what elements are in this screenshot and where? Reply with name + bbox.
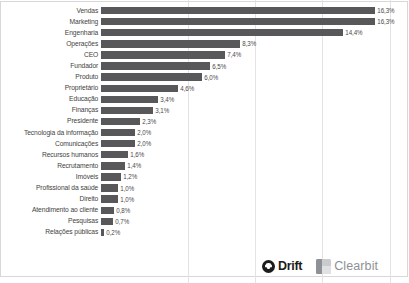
bar-category-label: Comunicações [8,140,101,148]
bar-category-label: Produto [8,73,101,81]
bar-track: 7,4% [101,49,409,60]
bar-value-label: 7,4% [225,51,241,58]
bar-track: 2,3% [101,116,409,127]
bar-track: 1,0% [101,183,409,194]
bar-value-label: 4,6% [178,85,194,92]
bar[interactable] [101,184,118,191]
bar-row[interactable]: Imóveis1,2% [0,171,409,182]
bar-track: 4,6% [101,83,409,94]
bar-row[interactable]: Operações8,3% [0,38,409,49]
bar-track: 3,4% [101,94,409,105]
bar[interactable] [101,73,202,80]
bar-row[interactable]: Vendas16,3% [0,5,409,16]
bar-track: 0,7% [101,216,409,227]
bar-value-label: 1,4% [125,162,141,169]
bar-category-label: Marketing [8,18,101,26]
bar[interactable] [101,85,178,92]
bar-row[interactable]: CEO7,4% [0,49,409,60]
bar-value-label: 1,0% [118,196,134,203]
clearbit-logo-label: Clearbit [334,259,378,273]
bar-value-label: 14,4% [343,29,362,36]
bar-value-label: 1,6% [128,151,144,158]
bar-track: 1,6% [101,149,409,160]
bar-track: 0,2% [101,227,409,238]
bar[interactable] [101,51,225,58]
bar-row[interactable]: Engenharia14,4% [0,27,409,38]
bar-row[interactable]: Proprietário4,6% [0,83,409,94]
bar-row[interactable]: Tecnologia da informação2,0% [0,127,409,138]
bar-category-label: Atendimento ao cliente [8,206,101,214]
bar-row[interactable]: Recursos humanos1,6% [0,149,409,160]
bar[interactable] [101,18,375,25]
bar-value-label: 16,3% [375,18,394,25]
bar-track: 0,8% [101,205,409,216]
bar-value-label: 3,1% [153,107,169,114]
bar-track: 1,0% [101,194,409,205]
bar[interactable] [101,29,343,36]
bar-track: 2,0% [101,127,409,138]
bar-track: 16,3% [101,16,409,27]
bar-category-label: Tecnologia da informação [8,129,101,137]
bar[interactable] [101,151,128,158]
bar-row[interactable]: Pesquisas0,7% [0,216,409,227]
bar[interactable] [101,107,153,114]
bar[interactable] [101,218,113,225]
bar-track: 1,2% [101,171,409,182]
bar-row[interactable]: Atendimento ao cliente0,8% [0,205,409,216]
bar-category-label: CEO [8,51,101,59]
bar-category-label: Vendas [8,7,101,15]
bar[interactable] [101,140,135,147]
bar[interactable] [101,207,114,214]
bar-track: 6,0% [101,72,409,83]
bar-category-label: Operações [8,40,101,48]
bar-category-label: Recursos humanos [8,151,101,159]
bar-row[interactable]: Educação3,4% [0,94,409,105]
bar[interactable] [101,62,210,69]
bar-category-label: Relações públicas [8,228,101,236]
clearbit-logo-icon [316,259,331,274]
bar-value-label: 0,8% [114,207,130,214]
bar-category-label: Educação [8,95,101,103]
clearbit-logo: Clearbit [316,259,378,274]
bar[interactable] [101,173,121,180]
bar-row[interactable]: Direito1,0% [0,194,409,205]
bar-track: 2,0% [101,138,409,149]
bar[interactable] [101,195,118,202]
bar-value-label: 0,7% [113,218,129,225]
bar-row[interactable]: Marketing16,3% [0,16,409,27]
bar-category-label: Finanças [8,106,101,114]
bar[interactable] [101,162,125,169]
bar[interactable] [101,7,375,14]
bar-row[interactable]: Finanças3,1% [0,105,409,116]
bar-track: 1,4% [101,160,409,171]
drift-logo-label: Drift [278,259,302,273]
bar-track: 8,3% [101,38,409,49]
bar-value-label: 8,3% [240,40,256,47]
bar-track: 16,3% [101,5,409,16]
bar-value-label: 2,3% [140,118,156,125]
bar-row[interactable]: Produto6,0% [0,72,409,83]
bar-row[interactable]: Recrutamento1,4% [0,160,409,171]
logo-group: Drift Clearbit [262,255,378,277]
drift-logo: Drift [262,259,302,273]
bar[interactable] [101,118,140,125]
bar-category-label: Direito [8,195,101,203]
chart-container: Vendas16,3%Marketing16,3%Engenharia14,4%… [0,0,409,283]
bar-value-label: 6,5% [210,63,226,70]
bar-category-label: Engenharia [8,29,101,37]
bar[interactable] [101,96,158,103]
bar[interactable] [101,40,240,47]
bar-row[interactable]: Relações públicas0,2% [0,227,409,238]
bar-row[interactable]: Profissional da saúde1,0% [0,183,409,194]
bar-value-label: 6,0% [202,74,218,81]
bar-track: 14,4% [101,27,409,38]
bar-category-label: Presidente [8,117,101,125]
bar-row[interactable]: Comunicações2,0% [0,138,409,149]
bar-category-label: Proprietário [8,84,101,92]
bar[interactable] [101,129,135,136]
bar-row[interactable]: Fundador6,5% [0,60,409,71]
bar-track: 6,5% [101,60,409,71]
bar-row[interactable]: Presidente2,3% [0,116,409,127]
bar-rows-group: Vendas16,3%Marketing16,3%Engenharia14,4%… [0,5,409,238]
bar-category-label: Profissional da saúde [8,184,101,192]
